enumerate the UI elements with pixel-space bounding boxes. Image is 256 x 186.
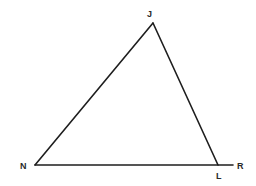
triangle-diagram: J N L R xyxy=(0,0,256,186)
point-label-r: R xyxy=(237,161,244,171)
segment-jl xyxy=(153,23,218,165)
point-label-n: N xyxy=(20,161,27,171)
segment-nj xyxy=(35,23,153,165)
point-label-l: L xyxy=(216,171,222,181)
point-label-j: J xyxy=(147,9,152,19)
